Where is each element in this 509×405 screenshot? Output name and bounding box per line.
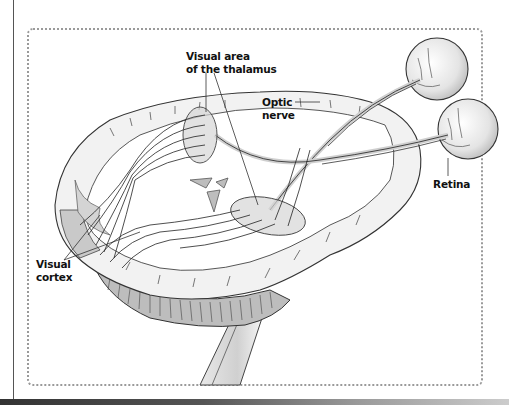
label-retina-text: Retina	[433, 178, 470, 191]
label-optic-line2: nerve	[262, 109, 295, 122]
label-thalamus: Visual area of the thalamus	[186, 50, 277, 76]
label-optic-line1: Optic	[262, 96, 295, 109]
brain-hemisphere	[55, 91, 421, 299]
label-optic-nerve: Optic nerve	[262, 96, 295, 122]
label-cortex-line2: cortex	[36, 271, 72, 284]
label-retina: Retina	[433, 178, 470, 191]
eyeball-lower	[438, 99, 498, 159]
label-cortex-line1: Visual	[36, 258, 72, 271]
label-thalamus-line1: Visual area	[186, 50, 277, 63]
label-visual-cortex: Visual cortex	[36, 258, 72, 284]
label-thalamus-line2: of the thalamus	[186, 63, 277, 76]
brain-stem	[200, 318, 262, 385]
eyeball-upper	[406, 38, 468, 100]
